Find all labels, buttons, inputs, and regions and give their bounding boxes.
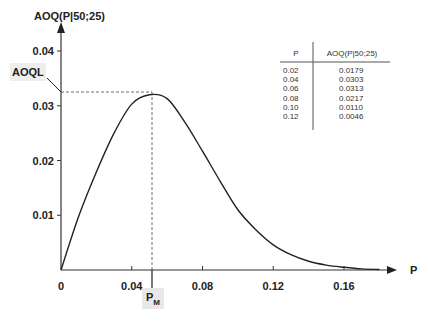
y-tick-label: 0.01 bbox=[33, 209, 54, 221]
table-cell-aoq: 0.0046 bbox=[339, 112, 364, 121]
y-tick-label: 0.02 bbox=[33, 155, 54, 167]
x-axis-arrow-icon bbox=[387, 266, 397, 274]
table-cell-p: 0.08 bbox=[283, 94, 299, 103]
x-tick-label: 0.16 bbox=[333, 280, 354, 292]
axes bbox=[57, 22, 397, 274]
aoql-label: AOQL bbox=[12, 66, 44, 78]
x-tick-label: 0 bbox=[58, 280, 64, 292]
table-cell-p: 0.12 bbox=[283, 112, 299, 121]
table-cell-aoq: 0.0217 bbox=[339, 94, 364, 103]
table-cell-p: 0.06 bbox=[283, 84, 299, 93]
table-header-p: P bbox=[293, 49, 298, 58]
table-cell-aoq: 0.0179 bbox=[339, 66, 364, 75]
y-axis-arrow-icon bbox=[57, 22, 65, 33]
y-tick-label: 0.03 bbox=[33, 100, 54, 112]
table-cell-aoq: 0.0110 bbox=[339, 103, 363, 112]
y-axis-title: AOQ(P|50;25) bbox=[34, 10, 105, 22]
x-axis-title: P bbox=[410, 264, 417, 276]
x-tick-label: 0.08 bbox=[192, 280, 213, 292]
table-header-aoq: AOQ(P|50;25) bbox=[327, 49, 378, 58]
table-cell-aoq: 0.0313 bbox=[339, 84, 364, 93]
table-cell-p: 0.04 bbox=[283, 75, 299, 84]
x-tick-label: 0.12 bbox=[263, 280, 284, 292]
table-cell-aoq: 0.0303 bbox=[339, 75, 364, 84]
y-tick-label: 0.04 bbox=[33, 45, 55, 57]
aoq-chart: AOQ(P|50;25) P 0.010.020.030.04 00.040.0… bbox=[0, 0, 429, 326]
aoql-pointer bbox=[47, 78, 61, 92]
table-cell-p: 0.10 bbox=[283, 103, 299, 112]
table-cell-p: 0.02 bbox=[283, 66, 299, 75]
data-table: PAOQ(P|50;25)0.020.01790.040.03030.060.0… bbox=[280, 42, 390, 130]
aoq-curve bbox=[61, 94, 379, 270]
x-tick-label: 0.04 bbox=[121, 280, 143, 292]
